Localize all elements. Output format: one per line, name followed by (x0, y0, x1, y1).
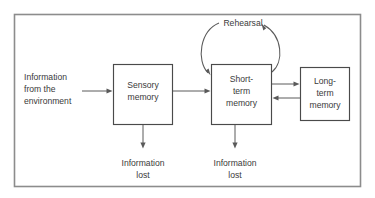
memory-model-diagram: Sensory memory Short- term memory Long- … (0, 0, 375, 198)
information-lost-sensory-line2: lost (136, 170, 150, 180)
information-lost-short-term-line2: lost (228, 170, 242, 180)
short-term-memory-label-line2: term (233, 86, 250, 96)
long-term-memory-label-line3: memory (309, 100, 341, 110)
information-lost-short-term-line1: Information (214, 158, 257, 168)
short-term-memory-label-line3: memory (226, 98, 258, 108)
information-from-environment-line1: Information (24, 72, 67, 82)
short-term-memory-label-line1: Short- (230, 74, 254, 84)
sensory-memory-label-line1: Sensory (127, 80, 159, 90)
long-term-memory-label-line1: Long- (314, 76, 336, 86)
information-from-environment-line2: from the (24, 84, 56, 94)
long-term-memory-label-line2: term (316, 88, 333, 98)
diagram-canvas: Sensory memory Short- term memory Long- … (0, 0, 375, 198)
information-from-environment-line3: environment (24, 96, 72, 106)
information-lost-sensory-line1: Information (122, 158, 165, 168)
rehearsal-label: Rehearsal (223, 18, 262, 28)
sensory-memory-label-line2: memory (127, 92, 159, 102)
